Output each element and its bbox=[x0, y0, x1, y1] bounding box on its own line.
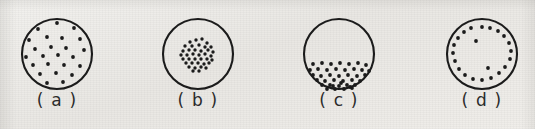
particle-dot bbox=[60, 36, 64, 40]
particle-dot bbox=[191, 52, 194, 55]
particle-dot bbox=[209, 45, 212, 48]
particle-dot bbox=[328, 73, 332, 77]
particle-group-a bbox=[24, 21, 86, 85]
particle-dot bbox=[456, 36, 460, 40]
particle-dot bbox=[190, 44, 193, 47]
particle-dot bbox=[211, 50, 214, 53]
particle-dot bbox=[320, 83, 324, 87]
panel-label-b: ( b ) bbox=[151, 92, 245, 109]
particle-dot bbox=[346, 73, 350, 77]
panel-label-d: ( d ) bbox=[435, 92, 529, 109]
dish-a bbox=[10, 7, 104, 101]
particle-dot bbox=[200, 37, 203, 40]
particle-group-c bbox=[308, 61, 371, 91]
dish-d bbox=[435, 7, 529, 101]
particle-dot bbox=[184, 61, 187, 64]
particle-dot bbox=[497, 71, 501, 75]
particle-dot bbox=[199, 49, 202, 52]
particle-dot bbox=[453, 59, 457, 63]
particle-dot bbox=[71, 55, 75, 59]
dish-c bbox=[292, 7, 386, 101]
particle-dot bbox=[187, 65, 190, 68]
particle-dot bbox=[503, 65, 507, 69]
particle-dot bbox=[188, 40, 191, 43]
particle-dot bbox=[197, 53, 200, 56]
particle-group-b bbox=[179, 37, 214, 72]
particle-dot bbox=[183, 44, 186, 47]
particle-dot bbox=[31, 63, 35, 67]
particle-dot bbox=[325, 68, 329, 72]
particle-dot bbox=[61, 80, 65, 84]
particle-dot bbox=[27, 38, 31, 42]
particle-dot bbox=[187, 48, 190, 51]
particle-dot bbox=[193, 66, 196, 69]
particle-dot bbox=[187, 57, 190, 60]
particle-dot bbox=[193, 57, 196, 60]
dish-b bbox=[151, 7, 245, 101]
particle-dot bbox=[350, 78, 354, 82]
particle-dot bbox=[339, 81, 343, 85]
particle-group-d bbox=[451, 25, 513, 82]
particle-dot bbox=[46, 62, 50, 66]
particle-dot bbox=[502, 34, 506, 38]
dish-svg-d bbox=[435, 7, 529, 101]
particle-dot bbox=[194, 38, 197, 41]
particle-dot bbox=[486, 66, 490, 70]
particle-dot bbox=[33, 47, 37, 51]
figure-panel-d: ( d ) bbox=[435, 0, 529, 129]
figure-panel-a: ( a ) bbox=[10, 0, 104, 129]
particle-dot bbox=[480, 78, 484, 82]
particle-dot bbox=[509, 49, 513, 53]
particle-dot bbox=[343, 68, 347, 72]
particle-dot bbox=[56, 53, 60, 57]
particle-dot bbox=[363, 73, 367, 77]
particle-dot bbox=[196, 61, 199, 64]
particle-dot bbox=[197, 69, 200, 72]
panel-label-a: ( a ) bbox=[10, 92, 104, 109]
particle-dot bbox=[463, 73, 467, 77]
particle-dot bbox=[199, 65, 202, 68]
particle-dot bbox=[54, 71, 58, 75]
particle-dot bbox=[507, 41, 511, 45]
particle-dot bbox=[49, 45, 53, 49]
particle-dot bbox=[364, 63, 368, 67]
particle-dot bbox=[316, 67, 320, 71]
dish-outline-c bbox=[304, 19, 374, 89]
particle-dot bbox=[70, 73, 74, 77]
particle-dot bbox=[41, 54, 45, 58]
figure-panel-c: ( c ) bbox=[292, 0, 386, 129]
particle-dot bbox=[210, 58, 213, 61]
particle-dot bbox=[320, 61, 324, 65]
particle-dot bbox=[203, 52, 206, 55]
particle-dot bbox=[352, 67, 356, 71]
particle-dot bbox=[82, 48, 86, 52]
particle-dot bbox=[480, 25, 484, 29]
particle-dot bbox=[308, 68, 312, 72]
particle-dot bbox=[191, 69, 194, 72]
particle-dot bbox=[360, 68, 364, 72]
particle-dot bbox=[205, 41, 208, 44]
particle-dot bbox=[488, 26, 492, 30]
particle-dot bbox=[315, 78, 319, 82]
particle-dot bbox=[311, 62, 315, 66]
particle-dot bbox=[181, 49, 184, 52]
particle-dot bbox=[38, 72, 42, 76]
particle-dot bbox=[331, 84, 335, 88]
particle-dot bbox=[469, 26, 473, 30]
particle-dot bbox=[311, 73, 315, 77]
particle-dot bbox=[181, 57, 184, 60]
particle-dot bbox=[355, 74, 359, 78]
particle-dot bbox=[329, 62, 333, 66]
particle-dot bbox=[496, 29, 500, 33]
particle-dot bbox=[207, 61, 210, 64]
particle-dot bbox=[64, 46, 68, 50]
particle-dot bbox=[358, 79, 362, 83]
particle-dot bbox=[62, 63, 66, 67]
particle-dot bbox=[367, 69, 371, 73]
particle-dot bbox=[332, 78, 336, 82]
particle-dot bbox=[206, 48, 209, 51]
figure-panel-b: ( b ) bbox=[151, 0, 245, 129]
particle-dot bbox=[24, 55, 28, 59]
particle-dot bbox=[457, 67, 461, 71]
particle-dot bbox=[209, 54, 212, 57]
